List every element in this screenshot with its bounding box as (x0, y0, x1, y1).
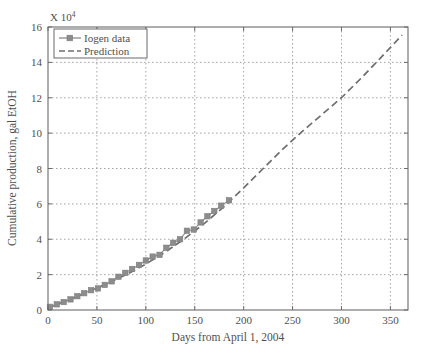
x-axis-tick-labels: 050100150200250300350 (45, 314, 399, 326)
x-tick-label: 250 (284, 314, 301, 326)
y-axis-title: Cumulative production, gal EtOH (6, 90, 19, 246)
x-tick-label: 50 (91, 314, 103, 326)
x-tick-label: 200 (235, 314, 252, 326)
x-axis-title: Days from April 1, 2004 (172, 331, 285, 344)
y-axis-exponent-label: X 104 (50, 10, 76, 23)
chart-legend: Iogen data Prediction (54, 29, 147, 58)
y-tick-label: 10 (31, 127, 43, 139)
x-tick-label: 300 (333, 314, 350, 326)
x-tick-label: 0 (45, 314, 51, 326)
cumulative-production-chart: 050100150200250300350 0246810121416 X 10… (0, 0, 428, 353)
y-tick-label: 16 (31, 21, 43, 33)
chart-figure: 050100150200250300350 0246810121416 X 10… (0, 0, 428, 353)
y-axis-tick-labels: 0246810121416 (31, 21, 43, 316)
x-tick-label: 150 (186, 314, 203, 326)
y-tick-label: 12 (31, 92, 42, 104)
y-tick-label: 6 (37, 198, 43, 210)
legend-label-iogen-data: Iogen data (84, 32, 130, 44)
y-tick-label: 14 (31, 56, 43, 68)
x-tick-label: 350 (382, 314, 399, 326)
y-tick-label: 4 (37, 233, 43, 245)
x-tick-label: 100 (138, 314, 155, 326)
legend-label-prediction: Prediction (84, 45, 130, 57)
legend-square-marker-icon (67, 35, 73, 41)
y-tick-label: 2 (37, 269, 43, 281)
y-tick-label: 0 (37, 304, 43, 316)
y-tick-label: 8 (37, 163, 43, 175)
